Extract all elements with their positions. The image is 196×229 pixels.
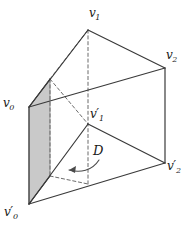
vertex-label-v1-prime: v′1 (90, 108, 105, 120)
region-label-d: D (93, 144, 103, 157)
vertex-label-v2: v2 (166, 49, 178, 61)
vertex-label-v2-prime: v′2 (167, 160, 182, 172)
vertex-label-v1: v1 (89, 7, 101, 19)
vertex-label-v0: v0 (3, 97, 15, 109)
edge-v1-v2 (88, 30, 165, 68)
shaded-side-face (29, 79, 50, 204)
hidden-edges-group (50, 30, 88, 184)
geometry-figure: v0 v1 v2 v′0 v′1 v′2 D (0, 0, 196, 229)
hidden-edge-vbp-vmid (50, 176, 88, 184)
vertex-label-v0-prime: v′0 (4, 206, 19, 218)
direction-arrow-head (69, 166, 76, 173)
hidden-edge-vb-vmidtop (50, 79, 88, 124)
